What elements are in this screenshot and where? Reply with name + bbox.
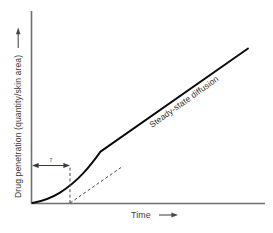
steady-state-diffusion-label: Steady-state diffusion xyxy=(147,73,220,129)
lag-time-symbol-label: τ xyxy=(50,156,53,163)
x-axis-label: Time xyxy=(131,210,151,220)
steady-state-label-group: Steady-state diffusion xyxy=(147,73,220,129)
x-axis-label-group: Time xyxy=(131,210,178,220)
figure-canvas: τ Steady-state diffusion Drug penetratio… xyxy=(0,0,273,233)
lag-time-arrow-head-left xyxy=(32,163,39,168)
x-axis-label-arrow xyxy=(159,213,178,218)
lag-time-annotation: τ xyxy=(32,156,70,168)
diffusion-figure: τ Steady-state diffusion Drug penetratio… xyxy=(0,0,273,233)
y-axis-label: Drug penetration (quantity/skin area) xyxy=(13,55,23,198)
y-axis-label-arrow-head xyxy=(16,28,21,35)
drug-penetration-curve xyxy=(33,49,249,204)
penetration-curve-group xyxy=(33,49,249,204)
x-axis-label-arrow-head xyxy=(171,213,178,218)
axes-group xyxy=(31,11,265,204)
y-axis-label-group: Drug penetration (quantity/skin area) xyxy=(13,28,23,199)
lag-time-arrow-head-right xyxy=(63,163,70,168)
tangent-extrapolation-group xyxy=(70,166,121,204)
y-axis-label-arrow xyxy=(16,28,21,49)
steady-state-tangent-dashed xyxy=(70,168,121,204)
